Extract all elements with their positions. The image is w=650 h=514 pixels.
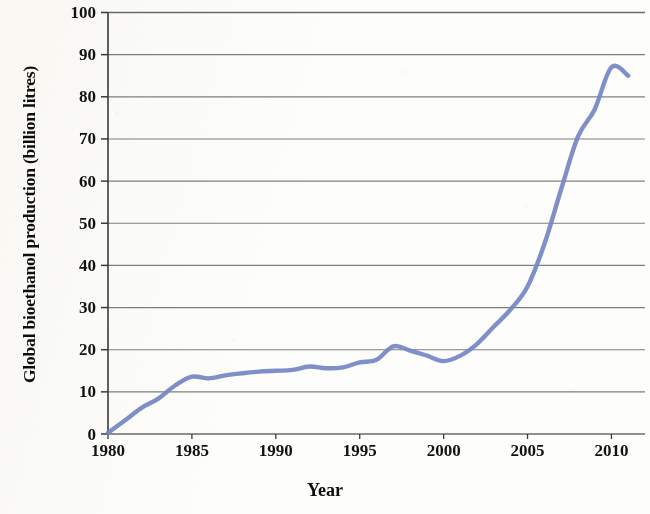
bioethanol-production-chart: Global bioethanol production (billion li… bbox=[0, 0, 650, 514]
tick-mark-group bbox=[101, 13, 611, 440]
gridline-group bbox=[108, 13, 645, 435]
data-line-series-0 bbox=[108, 66, 628, 433]
plot-area bbox=[0, 0, 650, 514]
